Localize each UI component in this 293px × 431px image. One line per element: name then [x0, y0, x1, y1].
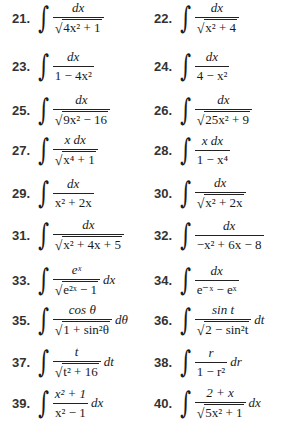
denominator: √4x² + 1	[53, 17, 104, 37]
differential: dx	[249, 395, 261, 411]
differential: dt	[254, 312, 264, 328]
problem-number: 35.	[4, 313, 30, 328]
radical: √t² + 16	[55, 363, 99, 380]
problem-item: 28.∫x dx1 − x⁴	[146, 130, 233, 170]
denominator: √x² + 4	[195, 17, 239, 37]
denominator: √1 + sin²θ	[53, 319, 112, 339]
numerator: dx	[215, 92, 231, 109]
radicand: 5x² + 1	[204, 404, 243, 421]
numerator: dx	[204, 49, 220, 66]
problem-number: 39.	[4, 396, 30, 411]
radicand: x² + 4	[204, 19, 237, 36]
radical: √9x² − 16	[55, 111, 108, 128]
radical: √x² + 4x + 5	[55, 236, 122, 253]
integral-sign-icon: ∫	[38, 3, 49, 33]
problem-number: 28.	[146, 143, 172, 158]
problem-number: 23.	[4, 59, 30, 74]
denominator: √e²ˣ − 1	[53, 279, 100, 299]
problem-number: 34.	[146, 273, 172, 288]
denominator: x² − 1	[53, 403, 88, 421]
radical-icon: √	[55, 324, 63, 338]
numerator: sin t	[210, 302, 236, 319]
denominator: √2 − sin²t	[195, 319, 252, 339]
integral-sign-icon: ∫	[38, 51, 49, 81]
denominator-text: x² + 2x	[55, 195, 92, 210]
problem-number: 25.	[4, 103, 30, 118]
integral-sign-icon: ∫	[38, 178, 49, 208]
problem-number: 24.	[146, 59, 172, 74]
radicand: e²ˣ − 1	[62, 281, 98, 298]
problem-item: 36.∫sin t√2 − sin²tdt	[146, 300, 264, 340]
problem-item: 38.∫r1 − r²dr	[146, 342, 242, 382]
problem-item: 25.∫dx√9x² − 16	[4, 90, 113, 130]
radical-icon: √	[55, 366, 63, 380]
integral-sign-icon: ∫	[180, 95, 191, 125]
integral-sign-icon: ∫	[180, 51, 191, 81]
fraction: sin t√2 − sin²t	[195, 302, 252, 339]
fraction: dx4 − x²	[195, 49, 230, 84]
problem-number: 27.	[4, 143, 30, 158]
numerator: dx	[221, 218, 237, 235]
fraction: r1 − r²	[195, 345, 228, 380]
denominator-text: 1 − x⁴	[197, 152, 228, 167]
denominator-text: 1 − r²	[197, 364, 226, 379]
fraction: dx√x² + 2x	[195, 175, 246, 212]
radical: √5x² + 1	[197, 404, 244, 421]
numerator: dx	[209, 0, 225, 17]
problem-item: 32.∫dx−x² + 6x − 8	[146, 215, 267, 255]
radical: √2 − sin²t	[197, 321, 250, 338]
integral-sign-icon: ∫	[38, 305, 49, 335]
problem-item: 21.∫dx√4x² + 1	[4, 0, 107, 38]
problem-item: 37.∫t√t² + 16dt	[4, 342, 114, 382]
differential: dr	[230, 354, 242, 370]
problem-item: 29.∫dxx² + 2x	[4, 173, 97, 213]
fraction: dx√9x² − 16	[53, 92, 110, 129]
denominator-text: −x² + 6x − 8	[197, 237, 262, 252]
integral-sign-icon: ∫	[180, 305, 191, 335]
radicand: t² + 16	[62, 363, 98, 380]
denominator-text: e⁻ˣ − eˣ	[197, 282, 237, 297]
fraction: dx√x² + 4x + 5	[53, 217, 124, 254]
radicand: x² + 4x + 5	[62, 236, 122, 253]
radicand: 25x² + 9	[204, 111, 250, 128]
problem-item: 30.∫dx√x² + 2x	[146, 173, 249, 213]
denominator: 1 − r²	[195, 362, 228, 380]
integral-sign-icon: ∫	[180, 178, 191, 208]
problem-number: 40.	[146, 396, 172, 411]
numerator: r	[206, 345, 215, 362]
radical-icon: √	[55, 22, 63, 36]
radical-icon: √	[55, 239, 63, 253]
problem-item: 33.∫eˣ√e²ˣ − 1dx	[4, 260, 115, 300]
problem-item: 22.∫dx√x² + 4	[146, 0, 242, 38]
denominator: √x² + 2x	[195, 192, 246, 212]
denominator-text: 1 − 4x²	[55, 68, 92, 83]
denominator: √t² + 16	[53, 361, 101, 381]
denominator-text: 4 − x²	[197, 68, 228, 83]
problem-item: 40.∫2 + x√5x² + 1dx	[146, 383, 261, 423]
numerator: x² + 1	[53, 386, 88, 403]
fraction: eˣ√e²ˣ − 1	[53, 262, 100, 299]
radical: √x² + 2x	[197, 194, 244, 211]
differential: dx	[103, 272, 115, 288]
denominator: −x² + 6x − 8	[195, 235, 264, 253]
radicand: 2 − sin²t	[204, 321, 249, 338]
fraction: dx1 − 4x²	[53, 49, 94, 84]
denominator: 4 − x²	[195, 66, 230, 84]
fraction: dx√25x² + 9	[195, 92, 252, 129]
fraction: dx−x² + 6x − 8	[195, 218, 264, 253]
numerator: dx	[212, 175, 228, 192]
radicand: 9x² − 16	[62, 111, 108, 128]
integral-sign-icon: ∫	[180, 347, 191, 377]
numerator: dx	[80, 217, 96, 234]
problem-number: 30.	[146, 186, 172, 201]
radical-icon: √	[197, 324, 205, 338]
numerator: x dx	[63, 132, 88, 149]
denominator: √x⁴ + 1	[53, 149, 98, 169]
numerator: cos θ	[67, 302, 98, 319]
numerator: dx	[208, 263, 224, 280]
radical: √x² + 4	[197, 19, 237, 36]
integral-sign-icon: ∫	[38, 95, 49, 125]
problem-number: 38.	[146, 355, 172, 370]
radicand: 1 + sin²θ	[62, 321, 110, 338]
radical-icon: √	[55, 284, 63, 298]
